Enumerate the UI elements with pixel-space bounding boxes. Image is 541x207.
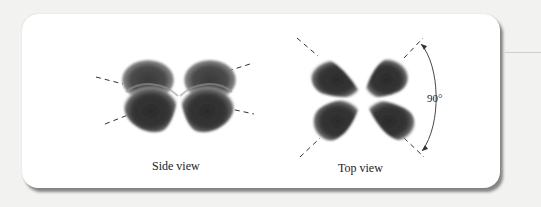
axis-dashed-line — [300, 138, 320, 157]
axis-dashed-line — [96, 77, 123, 84]
top-view-caption: Top view — [338, 161, 383, 176]
top-view-orbital — [297, 38, 436, 157]
arrowhead-icon — [422, 145, 428, 151]
orbital-diagram — [0, 0, 541, 207]
axis-dashed-line — [404, 138, 424, 157]
axis-dashed-line — [105, 115, 128, 124]
angle-label: 90° — [427, 92, 442, 104]
side-view-caption: Side view — [152, 159, 200, 174]
side-view-orbital — [96, 60, 254, 132]
axis-dashed-line — [404, 38, 423, 58]
arrowhead-icon — [421, 44, 427, 50]
axis-dashed-line — [297, 38, 318, 56]
